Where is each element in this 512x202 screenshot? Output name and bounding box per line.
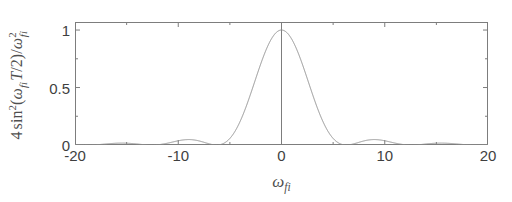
plot-area xyxy=(75,22,488,145)
y-label-sin: sin xyxy=(8,110,25,129)
y-axis-label: 4sin2(ωfiT/2)/ω2fi xyxy=(6,31,29,140)
x-tick-label-0: 0 xyxy=(277,147,285,164)
y-label-divider: / xyxy=(8,49,25,54)
y-label-omega-1-subscript: fi xyxy=(16,82,28,88)
y-tick-label-1: 1 xyxy=(34,22,70,39)
y-label-slash-two: /2 xyxy=(8,59,25,72)
y-label-period: T xyxy=(8,72,25,81)
x-tick-label-neg10: -10 xyxy=(167,147,189,164)
y-label-close-paren: ) xyxy=(8,53,25,58)
x-label-omega: ω xyxy=(272,172,284,191)
y-label-sin-exponent: 2 xyxy=(6,105,18,111)
y-label-omega-2-exponent: 2 xyxy=(6,32,18,38)
y-label-open-paren: ( xyxy=(8,99,25,104)
x-axis-label: ωfi xyxy=(75,172,488,194)
y-label-omega-2: ω xyxy=(8,38,25,49)
y-label-omega-1: ω xyxy=(8,88,25,99)
chart-svg xyxy=(75,22,488,145)
x-label-omega-subscript: fi xyxy=(284,181,290,194)
x-tick-label-20: 20 xyxy=(480,147,497,164)
y-tick-label-0p5: 0.5 xyxy=(34,79,70,96)
y-label-omega-2-subscript: fi xyxy=(16,31,28,37)
y-tick-label-0: 0 xyxy=(34,137,70,154)
y-label-coefficient: 4 xyxy=(8,131,25,139)
x-tick-label-10: 10 xyxy=(376,147,393,164)
figure-container: 4sin2(ωfiT/2)/ω2fi -20-1001020 00.51 ωfi xyxy=(0,0,512,202)
y-axis-label-wrapper: 4sin2(ωfiT/2)/ω2fi xyxy=(0,0,34,170)
